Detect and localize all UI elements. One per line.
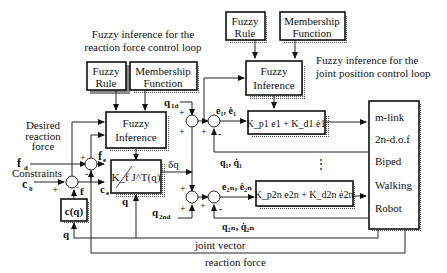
position-loop-title-line2: joint position control loop <box>315 67 431 79</box>
membership-function-right-block: Membership Function <box>280 12 348 44</box>
svg-text:Biped: Biped <box>375 155 402 167</box>
joint-vector-label: joint vector <box>194 239 246 251</box>
svg-text:-: - <box>76 182 79 192</box>
svg-text:Function: Function <box>292 27 332 39</box>
svg-text:2nd: 2nd <box>159 213 170 221</box>
svg-text:+: + <box>200 200 206 211</box>
e2n-label: e₂ₙ, ė₂ₙ <box>222 181 252 192</box>
sum-junction-q2nd <box>186 191 198 203</box>
svg-text:f: f <box>80 185 84 197</box>
force-loop-title-line2: reaction force control loop <box>85 41 202 53</box>
svg-text:Rule: Rule <box>96 77 117 89</box>
svg-text:+: + <box>179 107 185 118</box>
constraint-function-block: c(q) <box>61 199 90 224</box>
svg-text:0: 0 <box>29 185 33 193</box>
svg-text:Membership: Membership <box>284 15 340 27</box>
svg-text:Inference: Inference <box>115 131 157 143</box>
fuzzy-rule-right-block: Fuzzy Rule <box>226 12 268 44</box>
svg-text:K_p1 e1 + K_d1 ė1: K_p1 e1 + K_d1 ė1 <box>247 118 326 129</box>
svg-text:Fuzzy: Fuzzy <box>232 15 259 27</box>
svg-text:+: + <box>179 126 185 137</box>
svg-text:Walking: Walking <box>375 179 412 191</box>
svg-text:q: q <box>164 96 171 108</box>
sum-junction-e2n <box>208 191 220 203</box>
sum-junction-q1d <box>186 115 198 127</box>
pd-controller-joint1-block: K_p1 e1 + K_d1 ė1 <box>247 111 329 138</box>
svg-text:+: + <box>80 152 86 163</box>
svg-text:Membership: Membership <box>135 65 191 77</box>
svg-text:Fuzzy: Fuzzy <box>261 65 288 77</box>
svg-text:Fuzzy: Fuzzy <box>123 117 150 129</box>
force-gain-block: K_f J^T(q) <box>111 160 165 197</box>
reaction-force-label: reaction force <box>205 256 266 268</box>
desired-label-3: force <box>32 140 55 152</box>
svg-text:2n-d.o.f: 2n-d.o.f <box>375 133 410 145</box>
fuzzy-inference-right-block: Fuzzy Inference <box>246 61 305 99</box>
q1-label: q₁, q̇₁ <box>220 157 242 168</box>
svg-text:Fuzzy: Fuzzy <box>93 65 120 77</box>
svg-text:Inference: Inference <box>253 79 295 91</box>
fuzzy-inference-left-block: Fuzzy Inference <box>106 112 169 152</box>
biped-robot-block: m-link 2n-d.o.f Biped Walking Robot <box>369 101 422 232</box>
svg-text:+: + <box>180 203 186 214</box>
svg-text:Function: Function <box>143 77 183 89</box>
svg-text:Rule: Rule <box>235 27 256 39</box>
position-loop-title-line1: Fuzzy inference for the <box>316 54 418 66</box>
membership-function-left-block: Membership Function <box>130 62 200 94</box>
svg-text:e: e <box>106 189 109 197</box>
svg-text:m-link: m-link <box>375 111 405 123</box>
svg-text:-: - <box>85 168 88 179</box>
delta-q-label: δq <box>168 158 179 170</box>
block-diagram: Fuzzy inference for the reaction force c… <box>0 0 447 273</box>
pd-controller-joint2n-block: K_p2n e2n + K_d2n ė2n <box>255 181 356 210</box>
svg-text:c: c <box>100 183 105 195</box>
svg-text:e: e <box>103 156 106 164</box>
force-loop-title-line1: Fuzzy inference for the <box>92 28 194 40</box>
svg-text:1d: 1d <box>171 102 179 110</box>
svg-text:K_f J^T(q): K_f J^T(q) <box>112 171 161 184</box>
svg-text:+: + <box>180 183 186 194</box>
sum-junction-e1 <box>208 115 220 127</box>
c0-label: c <box>22 177 28 191</box>
svg-text:-: - <box>218 128 221 139</box>
q2n-label: q₂ₙ, q̇₂ₙ <box>222 221 255 232</box>
svg-text:q: q <box>63 228 70 240</box>
svg-text:c(q): c(q) <box>65 205 84 218</box>
svg-text:+: + <box>52 183 58 195</box>
e1-label: e₁, ė₁ <box>216 105 236 116</box>
svg-text:-: - <box>219 203 222 214</box>
ellipsis: ⋮ <box>315 157 327 171</box>
svg-text:Robot: Robot <box>375 202 402 214</box>
svg-text:K_p2n e2n + K_d2n ė2n: K_p2n e2n + K_d2n ė2n <box>255 189 354 200</box>
fuzzy-rule-left-block: Fuzzy Rule <box>87 62 130 94</box>
constraints-label: Constraints <box>12 167 62 179</box>
svg-text:q: q <box>122 195 129 207</box>
svg-text:+: + <box>201 126 207 137</box>
svg-text:q: q <box>152 206 159 218</box>
